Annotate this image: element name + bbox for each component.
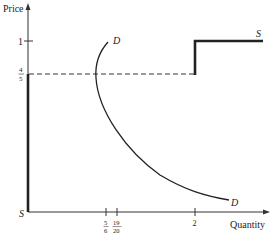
y-axis-arrow-icon: [26, 3, 31, 10]
y-tick-label-1: 1: [18, 36, 23, 47]
demand-label-top: D: [112, 35, 121, 46]
y-tick-label-4-5-den: 5: [19, 75, 23, 83]
demand-label-bottom: D: [230, 197, 239, 208]
supply-step-upper: [195, 41, 263, 75]
x-axis-label: Quantity: [230, 219, 265, 230]
y-axis-label: Price: [3, 3, 24, 14]
demand-curve: [96, 42, 229, 200]
x-tick-label-19-20-num: 19: [113, 219, 120, 226]
x-tick-label-2: 2: [193, 219, 197, 228]
x-axis-arrow-icon: [263, 210, 270, 215]
supply-demand-chart: Price Quantity 1 4 5 5 6 19 20 2 S S D D: [0, 0, 271, 239]
y-tick-label-4-5-num: 4: [19, 66, 23, 74]
supply-label-bottom: S: [19, 208, 24, 219]
x-tick-label-5-6-den: 6: [104, 227, 108, 234]
x-tick-label-19-20-den: 20: [113, 227, 120, 234]
supply-label-top: S: [256, 28, 261, 39]
x-tick-label-5-6-num: 5: [104, 219, 107, 226]
